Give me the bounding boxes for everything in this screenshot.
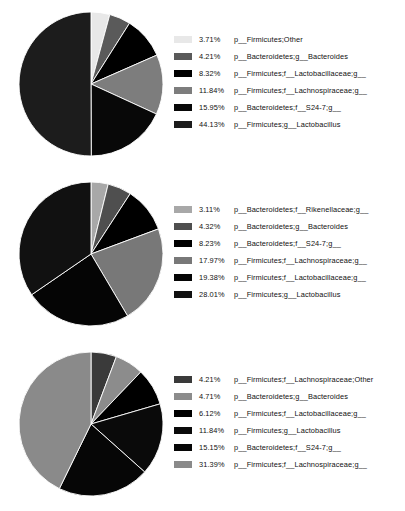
legend-percent-value: 8.32% bbox=[199, 69, 228, 78]
legend-color-swatch bbox=[174, 206, 192, 213]
legend-percent-value: 4.21% bbox=[199, 52, 228, 61]
legend-item: 4.71%p__Bacteroidetes;g__Bacteroides bbox=[174, 388, 402, 405]
legend-taxon-label: p__Bacteroidetes;g__Bacteroides bbox=[234, 52, 348, 61]
legend-taxon-label: p__Firmicutes;f__Lachnospiraceae;Other bbox=[234, 375, 373, 384]
legend-percent-value: 31.39% bbox=[199, 460, 228, 469]
legend-taxon-label: p__Firmicutes;g__Lactobacillus bbox=[234, 120, 341, 129]
legend-taxon-label: p__Bacteroidetes;f__Rikenellaceae;g__ bbox=[234, 205, 368, 214]
chart-legend: 4.21%p__Firmicutes;f__Lachnospiraceae;Ot… bbox=[174, 371, 402, 473]
pie-slice bbox=[19, 12, 91, 156]
pie-chart bbox=[16, 348, 166, 500]
legend-percent-value: 3.11% bbox=[199, 205, 228, 214]
legend-color-swatch bbox=[174, 274, 192, 281]
legend-color-swatch bbox=[174, 104, 192, 111]
legend-color-swatch bbox=[174, 36, 192, 43]
legend-percent-value: 15.15% bbox=[199, 443, 228, 452]
legend-percent-value: 15.95% bbox=[199, 103, 228, 112]
legend-taxon-label: p__Bacteroidetes;f__S24-7;g__ bbox=[234, 443, 341, 452]
legend-color-swatch bbox=[174, 70, 192, 77]
legend-item: 15.95%p__Bacteroidetes;f__S24-7;g__ bbox=[174, 99, 402, 116]
legend-color-swatch bbox=[174, 223, 192, 230]
legend-percent-value: 11.84% bbox=[199, 86, 228, 95]
legend-color-swatch bbox=[174, 53, 192, 60]
legend-item: 4.21%p__Firmicutes;f__Lachnospiraceae;Ot… bbox=[174, 371, 402, 388]
legend-percent-value: 8.23% bbox=[199, 239, 228, 248]
legend-taxon-label: p__Firmicutes;f__Lactobacillaceae;g__ bbox=[234, 69, 366, 78]
legend-percent-value: 3.71% bbox=[199, 35, 228, 44]
legend-taxon-label: p__Bacteroidetes;f__S24-7;g__ bbox=[234, 103, 341, 112]
legend-item: 8.32%p__Firmicutes;f__Lactobacillaceae;g… bbox=[174, 65, 402, 82]
pie-chart bbox=[16, 178, 166, 330]
legend-taxon-label: p__Firmicutes;f__Lachnospiraceae;g__ bbox=[234, 256, 367, 265]
legend-color-swatch bbox=[174, 444, 192, 451]
legend-item: 19.38%p__Firmicutes;f__Lactobacillaceae;… bbox=[174, 269, 402, 286]
legend-color-swatch bbox=[174, 461, 192, 468]
pie-chart bbox=[16, 8, 166, 160]
legend-percent-value: 44.13% bbox=[199, 120, 228, 129]
legend-item: 28.01%p__Firmicutes;g__Lactobacillus bbox=[174, 286, 402, 303]
legend-item: 6.12%p__Firmicutes;f__Lactobacillaceae;g… bbox=[174, 405, 402, 422]
legend-color-swatch bbox=[174, 240, 192, 247]
legend-item: 3.11%p__Bacteroidetes;f__Rikenellaceae;g… bbox=[174, 201, 402, 218]
legend-item: 17.97%p__Firmicutes;f__Lachnospiraceae;g… bbox=[174, 252, 402, 269]
legend-color-swatch bbox=[174, 121, 192, 128]
legend-taxon-label: p__Firmicutes;g__Lactobacillus bbox=[234, 426, 341, 435]
legend-taxon-label: p__Firmicutes;f__Lachnospiraceae;g__ bbox=[234, 86, 367, 95]
legend-percent-value: 4.71% bbox=[199, 392, 228, 401]
legend-taxon-label: p__Firmicutes;g__Lactobacillus bbox=[234, 290, 341, 299]
legend-taxon-label: p__Bacteroidetes;f__S24-7;g__ bbox=[234, 239, 341, 248]
legend-percent-value: 11.84% bbox=[199, 426, 228, 435]
legend-color-swatch bbox=[174, 87, 192, 94]
legend-item: 8.23%p__Bacteroidetes;f__S24-7;g__ bbox=[174, 235, 402, 252]
legend-percent-value: 17.97% bbox=[199, 256, 228, 265]
legend-taxon-label: p__Bacteroidetes;g__Bacteroides bbox=[234, 392, 348, 401]
legend-taxon-label: p__Firmicutes;f__Lactobacillaceae;g__ bbox=[234, 409, 366, 418]
legend-percent-value: 19.38% bbox=[199, 273, 228, 282]
legend-item: 3.71%p__Firmicutes;Other bbox=[174, 31, 402, 48]
legend-taxon-label: p__Firmicutes;f__Lactobacillaceae;g__ bbox=[234, 273, 366, 282]
chart-legend: 3.11%p__Bacteroidetes;f__Rikenellaceae;g… bbox=[174, 201, 402, 303]
legend-percent-value: 4.21% bbox=[199, 375, 228, 384]
legend-color-swatch bbox=[174, 393, 192, 400]
legend-taxon-label: p__Firmicutes;Other bbox=[234, 35, 303, 44]
legend-color-swatch bbox=[174, 257, 192, 264]
legend-item: 4.21%p__Bacteroidetes;g__Bacteroides bbox=[174, 48, 402, 65]
chart-legend: 3.71%p__Firmicutes;Other4.21%p__Bacteroi… bbox=[174, 31, 402, 133]
legend-item: 11.84%p__Firmicutes;g__Lactobacillus bbox=[174, 422, 402, 439]
legend-color-swatch bbox=[174, 291, 192, 298]
legend-taxon-label: p__Bacteroidetes;g__Bacteroides bbox=[234, 222, 348, 231]
legend-percent-value: 6.12% bbox=[199, 409, 228, 418]
pie-chart-figure: 3.71%p__Firmicutes;Other4.21%p__Bacteroi… bbox=[0, 0, 405, 170]
legend-color-swatch bbox=[174, 376, 192, 383]
pie-chart-figure: 4.21%p__Firmicutes;f__Lachnospiraceae;Ot… bbox=[0, 340, 405, 510]
legend-taxon-label: p__Firmicutes;f__Lachnospiraceae;g__ bbox=[234, 460, 367, 469]
pie-chart-figure: 3.11%p__Bacteroidetes;f__Rikenellaceae;g… bbox=[0, 170, 405, 340]
legend-item: 44.13%p__Firmicutes;g__Lactobacillus bbox=[174, 116, 402, 133]
legend-percent-value: 28.01% bbox=[199, 290, 228, 299]
pie-chart-svg bbox=[16, 8, 166, 160]
legend-percent-value: 4.32% bbox=[199, 222, 228, 231]
legend-item: 15.15%p__Bacteroidetes;f__S24-7;g__ bbox=[174, 439, 402, 456]
legend-color-swatch bbox=[174, 410, 192, 417]
pie-chart-svg bbox=[16, 348, 166, 500]
legend-item: 31.39%p__Firmicutes;f__Lachnospiraceae;g… bbox=[174, 456, 402, 473]
pie-chart-svg bbox=[16, 178, 166, 330]
pie-chart-figure-list: 3.71%p__Firmicutes;Other4.21%p__Bacteroi… bbox=[0, 0, 405, 510]
legend-item: 11.84%p__Firmicutes;f__Lachnospiraceae;g… bbox=[174, 82, 402, 99]
legend-item: 4.32%p__Bacteroidetes;g__Bacteroides bbox=[174, 218, 402, 235]
legend-color-swatch bbox=[174, 427, 192, 434]
